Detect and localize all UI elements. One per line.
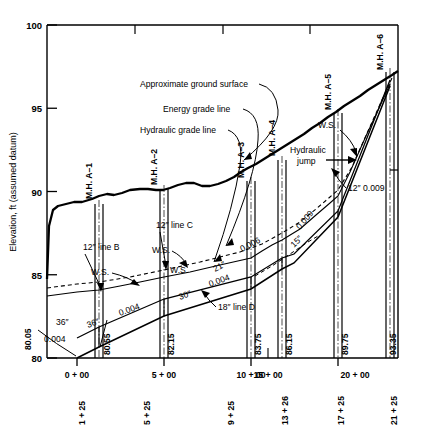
invert-elevation-8975: 89.75 [340,333,350,355]
invert-elevation-8615: 86.15 [284,333,294,355]
y-tick-label-95: 95 [31,103,42,114]
station-label-1326: 13 + 26 [280,396,290,425]
manhole-label-a2: M.H. A–2 [149,149,159,185]
x-tick-label-500: 5 + 00 [152,370,177,380]
y-tick-label-100: 100 [26,20,42,31]
annot-slope-0006: 0.006 [238,235,262,254]
annot-slope-0004-a: 0.004 [44,334,66,344]
callout-label-line-c: 12″ line C [156,220,193,230]
manhole-label-a5: M.H. A–5 [323,74,333,110]
invert-elevation-8055: 80.55 [102,333,112,355]
callout-label-ground-surface: Approximate ground surface [140,79,248,89]
invert-elevation-9335: 93.35 [388,333,398,355]
callout-label-hydraulic-jump-line2: jump [296,156,316,166]
manhole-shaft-a5 [334,109,342,358]
manhole-label-a4: M.H. A–4 [267,120,277,156]
invert-elevation-8215: 82.15 [166,333,176,355]
annot-slope-0004-c: 0.004 [207,272,231,289]
callout-hydraulic-grade-line: Hydraulic grade line [140,125,241,262]
annot-size-36-a: 36″ [56,317,69,327]
x-tick-label-0: 0 + 00 [65,370,90,380]
manhole-shaft-a3 [247,177,255,358]
annot-size-30: 30″ [177,288,192,302]
annot-size-slope-12: 12″ 0.009 [348,183,385,193]
annot-slope-0004-b: 0.004 [117,301,141,318]
y-axis-title: Elevation, ft (assumed datum) [8,132,18,252]
annot-slope-0009-a: 0.009 [294,208,316,231]
y-tick-label-85: 85 [31,270,42,281]
manhole-shaft-a2 [160,185,168,358]
ws-label-1: W.S. [91,267,109,277]
manhole-shaft-a6 [386,68,394,358]
ws-label-4: W.S. [318,120,336,130]
callout-hydraulic-jump: Hydraulic jump [290,145,357,166]
sewer-profile-figure: 100 95 90 85 80 Elevation, ft (assumed d… [0,0,424,430]
y-tick-label-90: 90 [31,187,42,198]
station-label-125: 1 + 25 [77,401,87,425]
x-tick-label-1500: 15 + 00 [253,370,282,380]
callout-label-line-b: 12″ line B [83,242,120,252]
callout-label-energy-grade-line: Energy grade line [163,104,231,114]
invert-elevation-8005: 80.05 [23,328,33,350]
x-tick-label-2000: 20 + 00 [340,370,369,380]
y-tick-label-80: 80 [31,353,42,364]
station-label-525: 5 + 25 [142,401,152,425]
manhole-label-a6: M.H. A–6 [375,34,385,70]
station-labels: 1 + 25 5 + 25 9 + 25 13 + 26 17 + 25 21 … [77,396,399,425]
callout-label-hydraulic-jump-line1: Hydraulic [290,145,327,155]
y-axis-ticks: 100 95 90 85 80 [26,20,57,364]
station-label-925: 9 + 25 [226,401,236,425]
invert-elevation-8375: 83.75 [253,333,263,355]
manhole-shafts [95,68,394,358]
callout-label-line-d: 18″ line D [218,302,255,312]
ws-label-2: W.S. [152,245,170,255]
station-label-2125: 21 + 25 [389,396,399,425]
manhole-label-a1: M.H. A–1 [84,163,94,199]
annot-size-21: 21″ [211,259,227,274]
manhole-labels: M.H. A–1 M.H. A–2 M.H. A–3 M.H. A–4 M.H.… [84,34,385,199]
ws-label-3: W.S. [170,265,188,275]
callout-label-hydraulic-grade-line: Hydraulic grade line [140,125,216,135]
station-label-1725: 17 + 25 [336,396,346,425]
